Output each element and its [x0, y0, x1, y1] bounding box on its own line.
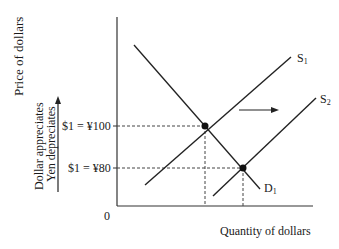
equilibrium-point-2 [240, 165, 247, 172]
supply-curve-s1 [145, 57, 291, 185]
origin-label: 0 [104, 210, 110, 222]
x-axis-label: Quantity of dollars [220, 225, 311, 237]
y-axis-label: Price of dollars [12, 17, 25, 96]
dashed-guides [117, 126, 243, 206]
yen-depreciates-label: Yen depreciates [45, 106, 57, 182]
s1-label: S1 [297, 52, 308, 66]
s2-label: S2 [320, 93, 331, 107]
price-label-100: $1 = ¥100 [62, 120, 111, 132]
shift-arrow-icon [239, 107, 279, 113]
price-label-80: $1 = ¥80 [68, 162, 111, 174]
d1-label: D1 [264, 182, 277, 196]
equilibrium-point-1 [202, 123, 209, 130]
